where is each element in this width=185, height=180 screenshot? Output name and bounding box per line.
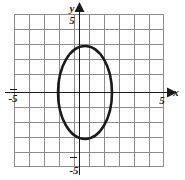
axes — [5, 2, 177, 175]
grid-vertical-lines — [15, 14, 164, 166]
tick-labels: -5 5 5 -5 — [8, 14, 165, 176]
grid — [14, 14, 164, 167]
coordinate-plane-figure: x y -5 5 5 -5 — [0, 0, 185, 180]
y-tick-label-negative-5: -5 — [69, 164, 79, 176]
axis-labels: x y — [68, 2, 180, 98]
x-tick-label-negative-5: -5 — [8, 92, 18, 104]
y-tick-label-positive-5: 5 — [69, 14, 75, 26]
y-axis-arrow-icon — [75, 2, 85, 12]
x-tick-label-positive-5: 5 — [159, 94, 165, 106]
x-axis-label: x — [172, 86, 179, 98]
tick-marks — [10, 90, 77, 158]
y-axis-label: y — [68, 2, 75, 14]
